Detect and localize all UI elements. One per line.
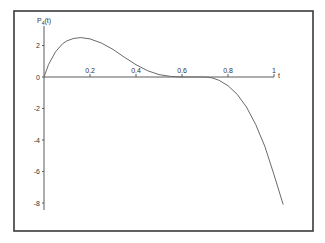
y-tick-label: -8	[34, 200, 40, 207]
axes	[44, 26, 274, 210]
x-axis-label: t	[278, 72, 280, 79]
y-tick-label: 2	[36, 42, 40, 49]
x-tick-label: 0.2	[85, 67, 95, 74]
y-tick-label: 0	[36, 74, 40, 81]
y-tick: -6	[34, 168, 44, 175]
x-tick-label: 0.4	[131, 67, 141, 74]
x-tick-label: 1	[272, 67, 276, 74]
x-tick: 0.8	[223, 67, 233, 77]
x-ticks: 0.20.40.60.81	[85, 67, 276, 77]
y-ticks: 20-2-4-6-8	[34, 42, 44, 207]
y-axis-label: P4(t)	[37, 17, 51, 26]
plot-frame	[14, 11, 313, 231]
chart: 0.20.40.60.81 20-2-4-6-8 P4(t) t	[0, 0, 325, 243]
y-tick: -4	[34, 137, 44, 144]
x-tick: 0.2	[85, 67, 95, 77]
y-tick-label: -4	[34, 137, 40, 144]
x-tick: 0.4	[131, 67, 141, 77]
x-tick-label: 0.8	[223, 67, 233, 74]
y-tick-label: -2	[34, 105, 40, 112]
y-tick: -8	[34, 200, 44, 207]
x-tick: 0.6	[177, 67, 187, 77]
x-tick: 1	[272, 67, 276, 77]
x-tick-label: 0.6	[177, 67, 187, 74]
y-tick: -2	[34, 105, 44, 112]
y-tick-label: -6	[34, 168, 40, 175]
series-line-p4	[44, 38, 283, 205]
y-tick: 2	[36, 42, 44, 49]
y-tick: 0	[36, 74, 44, 81]
